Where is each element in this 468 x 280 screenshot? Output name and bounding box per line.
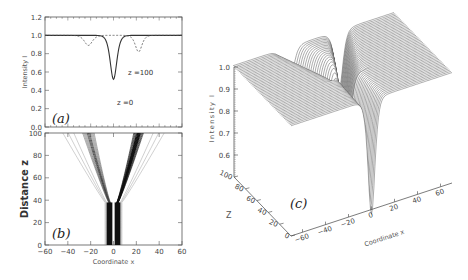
panel-a: 0.00.20.40.60.81.01.2 z =0 z =100 (a) In… <box>21 14 182 132</box>
ylabel-b: Distance z <box>19 160 30 219</box>
ytick-label: 20 <box>33 219 42 227</box>
figure: 0.00.20.40.60.81.01.2 z =0 z =100 (a) In… <box>0 0 468 280</box>
ytick-label: 0.4 <box>31 87 43 95</box>
ylabel-c: Z <box>226 211 232 220</box>
panel-label-c: (c) <box>290 196 307 211</box>
curve-z100 <box>45 35 182 52</box>
panel-b: 020406080100−60−40−200204060 (b) Distanc… <box>19 130 186 267</box>
xtick-label-c: 60 <box>434 188 445 198</box>
ytick-label: 60 <box>33 174 42 182</box>
xtick-label: 40 <box>155 248 164 256</box>
ztick-label: 0.6 <box>219 152 231 160</box>
xlabel-b: Coordinate x <box>93 258 135 266</box>
ytick-label: 0.2 <box>31 105 42 113</box>
ytick-label: 0.6 <box>31 69 43 77</box>
xtick-label: 60 <box>178 248 187 256</box>
ylabel-a: Intensity I <box>21 56 29 88</box>
ztick-label: 0.9 <box>219 86 230 94</box>
xtick-label: 20 <box>132 248 141 256</box>
contour-lines <box>63 133 164 245</box>
ytick-label: 100 <box>29 130 42 138</box>
xtick-label: −60 <box>38 248 53 256</box>
panel-label-a: (a) <box>52 111 70 126</box>
panel-c: 1.00.90.80.70.6100806040200−60−40−200204… <box>208 13 452 249</box>
ytick-label: 40 <box>33 197 42 205</box>
ytick-label: 0.8 <box>31 50 42 58</box>
Ztick-label: 100 <box>218 169 234 182</box>
ytick-label: 1.2 <box>31 14 42 22</box>
xtick-label-c: 20 <box>388 203 399 213</box>
annotation-z0: z =0 <box>117 99 133 107</box>
xtick-label: 0 <box>111 248 115 256</box>
panel-label-b: (b) <box>52 226 70 241</box>
xtick-label-c: 40 <box>411 195 422 205</box>
xtick-label: −40 <box>60 248 75 256</box>
ztick-label: 1.0 <box>219 64 230 72</box>
ztick-label: 0.7 <box>219 130 230 138</box>
annotation-z100: z =100 <box>128 69 153 77</box>
xtick-label: −20 <box>83 248 98 256</box>
xtick-label-c: 0 <box>368 211 375 220</box>
zlabel-c: Intensity I <box>208 94 216 143</box>
ztick-label: 0.8 <box>219 108 230 116</box>
curve-z0 <box>45 35 182 79</box>
surface-wireframe <box>233 13 452 238</box>
ytick-label: 1.0 <box>31 32 42 40</box>
ytick-label: 80 <box>33 152 42 160</box>
Ztick-label: 0 <box>283 232 290 241</box>
xlabel-c: Coordinate x <box>363 228 405 248</box>
